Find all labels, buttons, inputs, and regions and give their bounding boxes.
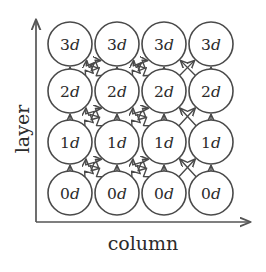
edge-arrow [181, 61, 196, 76]
lattice-node[interactable]: 1d [48, 120, 92, 164]
node-label: 1d [154, 134, 174, 152]
lattice-node[interactable]: 0d [95, 171, 139, 215]
edge-arrow [179, 108, 195, 126]
node-label: 3d [201, 36, 221, 54]
node-label: 0d [107, 185, 127, 203]
y-axis-label-wrap: layer [11, 89, 33, 169]
lattice-node[interactable]: 3d [142, 22, 186, 66]
edge-arrow [180, 61, 195, 76]
lattice-node[interactable]: 2d [48, 69, 92, 113]
node-label: 0d [60, 185, 80, 203]
edges-group [70, 60, 211, 177]
edge-arrow [180, 108, 196, 126]
edge-arrow [133, 108, 149, 126]
node-label: 0d [201, 185, 221, 203]
node-label: 0d [154, 185, 174, 203]
node-label: 1d [201, 134, 221, 152]
lattice-node[interactable]: 1d [142, 120, 186, 164]
node-label: 3d [107, 36, 127, 54]
edge-arrow [133, 159, 149, 177]
edge-arrow [180, 159, 196, 177]
node-label: 1d [107, 134, 127, 152]
lattice-node[interactable]: 2d [189, 69, 233, 113]
node-label: 2d [154, 83, 174, 101]
node-label: 3d [60, 36, 80, 54]
lattice-node[interactable]: 3d [189, 22, 233, 66]
x-axis-label: column [108, 232, 179, 254]
edge-arrow [86, 159, 102, 177]
lattice-diagram-figure: 0d0d0d0d1d1d1d1d2d2d2d2d3d3d3d3d layer c… [0, 0, 266, 272]
lattice-node[interactable]: 3d [95, 22, 139, 66]
node-label: 2d [60, 83, 80, 101]
lattice-node[interactable]: 0d [48, 171, 92, 215]
node-label: 2d [107, 83, 127, 101]
x-axis-label-wrap: column [36, 232, 250, 254]
lattice-node[interactable]: 2d [142, 69, 186, 113]
node-label: 2d [201, 83, 221, 101]
lattice-node[interactable]: 3d [48, 22, 92, 66]
node-label: 3d [154, 36, 174, 54]
edge-arrow [179, 159, 195, 177]
lattice-node[interactable]: 2d [95, 69, 139, 113]
y-axis-label: layer [11, 105, 33, 153]
lattice-node[interactable]: 0d [142, 171, 186, 215]
lattice-node[interactable]: 1d [189, 120, 233, 164]
node-label: 1d [60, 134, 80, 152]
edge-arrow [86, 108, 102, 126]
lattice-node[interactable]: 0d [189, 171, 233, 215]
lattice-node[interactable]: 1d [95, 120, 139, 164]
